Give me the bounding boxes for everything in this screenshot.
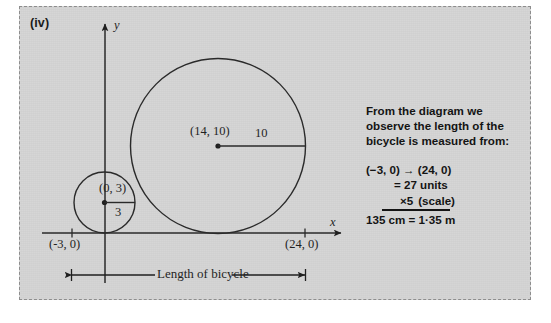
solution-scale-fraction: ×5(scale) 135 cm = 1·35 m — [366, 193, 531, 227]
small-circle-centre-label: (0, 3) — [99, 181, 126, 196]
large-circle-intercept-label: (24, 0) — [285, 237, 318, 252]
y-axis-label: y — [114, 18, 120, 33]
solution-scale-multiplier: ×5 — [400, 194, 413, 207]
figure-page: (iv) — [0, 0, 551, 323]
solution-scale-note: (scale) — [413, 194, 455, 207]
solution-result-line: 135 cm = 1·35 m — [366, 212, 531, 227]
solution-paragraph-line-1: From the diagram we — [366, 103, 531, 118]
solution-scale-top: ×5(scale) — [382, 193, 455, 208]
large-circle-centre-label: (14, 10) — [190, 124, 230, 139]
length-of-bicycle-label: Length of bicycle — [157, 266, 249, 282]
x-axis-label: x — [330, 215, 336, 230]
small-circle-radius-label: 3 — [115, 205, 121, 220]
solution-calculation: (−3, 0) → (24, 0) = 27 units ×5(scale) 1… — [366, 162, 531, 228]
solution-paragraph-line-3: bicycle is measured from: — [366, 133, 531, 148]
small-circle-intercept-label: (-3, 0) — [49, 237, 80, 252]
solution-text-block: From the diagram we observe the length o… — [366, 103, 531, 227]
solution-paragraph-line-2: observe the length of the — [366, 118, 531, 133]
solution-from-line: (−3, 0) → (24, 0) — [366, 162, 531, 177]
solution-fraction-rule — [382, 209, 450, 211]
solution-units-line: = 27 units — [366, 177, 531, 192]
large-circle-radius-label: 10 — [255, 126, 268, 141]
